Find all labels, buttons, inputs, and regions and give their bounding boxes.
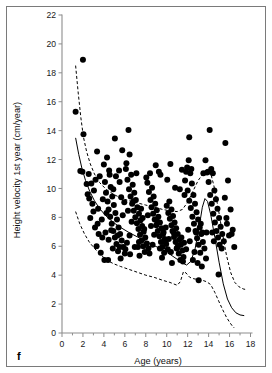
data-point <box>126 127 132 133</box>
x-tick-label: 16 <box>225 339 235 349</box>
data-point <box>109 193 115 199</box>
data-point <box>181 240 187 246</box>
data-point <box>126 186 132 192</box>
data-point <box>211 188 217 194</box>
data-point <box>151 232 157 238</box>
data-point <box>190 192 196 198</box>
data-point <box>206 179 212 185</box>
data-point <box>205 169 211 175</box>
data-point <box>207 192 213 198</box>
data-point <box>140 243 146 249</box>
data-point <box>141 226 147 232</box>
data-point <box>80 57 86 63</box>
data-point <box>229 231 235 237</box>
y-tick-label: 2 <box>51 299 56 309</box>
data-point <box>187 238 193 244</box>
data-point <box>104 154 110 160</box>
data-point <box>179 167 185 173</box>
x-axis-title: Age (years) <box>134 356 182 366</box>
data-point <box>135 226 141 232</box>
data-point <box>167 161 173 167</box>
data-point <box>102 179 108 185</box>
data-point <box>111 202 117 208</box>
data-point <box>216 215 222 221</box>
data-point <box>120 212 126 218</box>
x-tick-label: 18 <box>246 339 256 349</box>
data-point <box>201 245 207 251</box>
data-point <box>90 209 96 215</box>
data-point <box>134 220 140 226</box>
data-point <box>113 173 119 179</box>
y-tick-label: 8 <box>51 212 56 222</box>
data-point <box>149 204 155 210</box>
data-point <box>146 251 152 257</box>
data-point <box>114 217 120 223</box>
data-point <box>218 224 224 230</box>
data-point <box>194 209 200 215</box>
data-point <box>108 227 114 233</box>
data-point <box>99 217 105 223</box>
data-point <box>156 169 162 175</box>
data-point <box>101 162 107 168</box>
data-point <box>109 221 115 227</box>
data-point <box>197 250 203 256</box>
figure-panel: 0246810121416182022 024681012141618 Heig… <box>0 0 272 373</box>
reference-curve <box>76 212 235 328</box>
data-point <box>119 237 125 243</box>
y-tick-label: 16 <box>46 97 56 107</box>
data-point <box>192 201 198 207</box>
x-tick-label: 4 <box>101 339 106 349</box>
data-point <box>102 230 108 236</box>
data-point <box>124 177 130 183</box>
data-point <box>164 177 170 183</box>
x-tick-label: 10 <box>162 339 172 349</box>
data-point <box>95 221 101 227</box>
data-point <box>110 186 116 192</box>
data-point <box>136 239 142 245</box>
data-point <box>150 211 156 217</box>
x-axis-tick-labels: 024681012141618 <box>60 339 256 349</box>
data-point <box>148 223 154 229</box>
data-point <box>162 239 168 245</box>
data-point <box>117 179 123 185</box>
data-point <box>189 180 195 186</box>
x-tick-label: 8 <box>143 339 148 349</box>
data-point <box>222 195 228 201</box>
data-point <box>225 178 231 184</box>
data-point <box>106 167 112 173</box>
x-tick-label: 6 <box>122 339 127 349</box>
data-point <box>127 151 133 157</box>
data-point <box>138 206 144 212</box>
data-point <box>169 260 175 266</box>
data-point <box>118 194 124 200</box>
data-point <box>154 219 160 225</box>
data-point <box>146 189 152 195</box>
data-point <box>147 197 153 203</box>
data-point <box>73 109 79 115</box>
data-point <box>116 167 122 173</box>
data-point <box>209 201 215 207</box>
data-point <box>203 256 209 262</box>
data-point <box>198 221 204 227</box>
y-tick-label: 0 <box>51 328 56 338</box>
data-point <box>133 170 139 176</box>
data-point <box>185 188 191 194</box>
data-point <box>219 245 225 251</box>
y-tick-label: 4 <box>51 270 56 280</box>
data-point <box>123 166 129 172</box>
data-point <box>112 136 118 142</box>
x-tick-label: 2 <box>81 339 86 349</box>
data-point <box>136 253 142 259</box>
data-point <box>104 210 110 216</box>
data-point <box>185 227 191 233</box>
data-point <box>183 246 189 252</box>
data-point <box>224 221 230 227</box>
x-tick-label: 14 <box>204 339 214 349</box>
data-point <box>202 157 208 163</box>
data-point <box>199 264 205 270</box>
reference-curve-layer <box>76 66 247 328</box>
data-point <box>186 157 192 163</box>
y-tick-label: 10 <box>46 184 56 194</box>
data-point <box>153 162 159 168</box>
scatter-plot: 0246810121416182022 024681012141618 Heig… <box>0 0 272 373</box>
